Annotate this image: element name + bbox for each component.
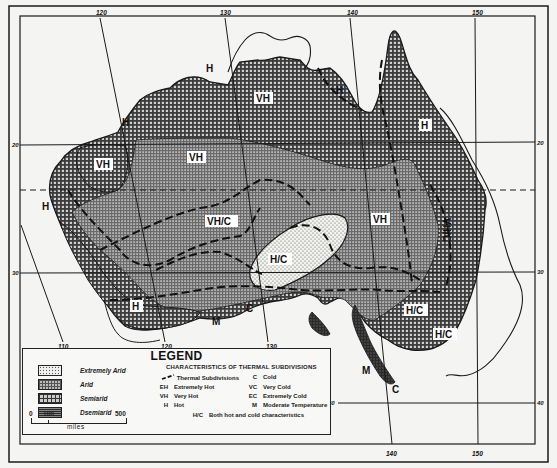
lon-label-140-top: 140	[347, 9, 358, 16]
dry-subhumid-gulf	[309, 312, 330, 336]
swatch-coarse-grid	[38, 393, 62, 404]
region-label-h-queensland: H	[421, 120, 428, 131]
annotation-h-gulf: H	[336, 85, 343, 96]
scale-end: 500	[115, 410, 126, 417]
thermal-title: CHARACTERISTICS OF THERMAL SUBDIVISIONS	[166, 364, 317, 370]
legend-item-arid: Arid	[38, 379, 93, 390]
region-label-hc-coast: H/C	[435, 329, 452, 340]
lon-label-130-top: 130	[220, 9, 231, 16]
legend-label-arid: Arid	[80, 381, 93, 388]
thermal-line-icon	[161, 374, 175, 380]
legend-label-semiarid: Semiarid	[80, 395, 107, 402]
annotation-h-north: H	[206, 63, 213, 74]
lon-label-150-bottom: 150	[472, 450, 483, 457]
lat-label-20-right: 20	[536, 140, 544, 146]
thermal-item-line: Thermal Subdivisions	[161, 374, 239, 381]
legend-panel: LEGEND Extremely Arid Arid Semiarid Dsem…	[22, 348, 331, 435]
lon-label-150-top: 150	[472, 9, 483, 16]
thermal-label-line: Thermal Subdivisions	[177, 375, 239, 381]
annotation-c-south: C	[246, 303, 253, 314]
region-label-vhc-east: VH/C	[441, 218, 452, 242]
lon-label-120-top: 120	[96, 9, 107, 16]
legend-item-semiarid: Semiarid	[38, 393, 107, 404]
thermal-item-h: HHot	[156, 402, 184, 408]
legend-label-dry: Dsemiarid	[80, 409, 111, 416]
lat-label-30-left: 30	[12, 270, 19, 276]
region-label-vh-central: VH	[189, 152, 203, 163]
thermal-item-vc: VCVery Cold	[245, 384, 291, 390]
thermal-item-m: MModerate Temperature	[245, 402, 327, 408]
annotation-h-west: H	[42, 201, 49, 212]
legend-title: LEGEND	[23, 349, 330, 363]
annotation-m-southeast: M	[362, 365, 370, 376]
lat-label-30-right: 30	[537, 269, 544, 275]
region-label-vhc-central: VH/C	[207, 216, 231, 227]
scale-tick	[48, 420, 49, 423]
lat-label-40-right: 40	[536, 400, 544, 406]
swatch-fine-grid	[38, 379, 62, 390]
thermal-item-eh: EHExtremely Hot	[156, 384, 214, 390]
thermal-item-c: CCold	[245, 374, 276, 380]
region-label-h-southwest: H	[132, 301, 139, 312]
lat-label-20-left: 20	[11, 142, 19, 148]
meridian-110	[21, 225, 63, 342]
scale-start: 0	[29, 410, 33, 417]
region-label-hc-southeast: H/C	[406, 305, 423, 316]
scale-unit: miles	[67, 423, 85, 430]
region-label-vh-north: VH	[256, 93, 270, 104]
annotation-h-northwest: H	[122, 117, 129, 128]
thermal-item-hc: H/CBoth hot and cold characteristics	[191, 412, 304, 418]
region-label-vh-east: VH	[373, 214, 387, 225]
thermal-item-vh: VHVery Hot	[156, 393, 198, 399]
thermal-item-ec: ECExtremely Cold	[245, 393, 307, 399]
scale-mid: 100	[43, 410, 54, 417]
legend-item-extremely-arid: Extremely Arid	[38, 365, 126, 376]
lon-label-140-bottom: 140	[386, 450, 397, 457]
annotation-m-southwest: M	[212, 316, 220, 327]
scale-bar: 0 100 500 miles	[29, 420, 139, 444]
annotation-c-southeast: C	[392, 384, 399, 395]
region-label-vh-west: VH	[96, 159, 110, 170]
region-label-hc-central: H/C	[270, 254, 287, 265]
legend-label-extremely-arid: Extremely Arid	[80, 367, 126, 374]
swatch-dots	[38, 365, 62, 376]
